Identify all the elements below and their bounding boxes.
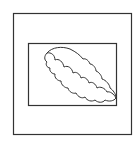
inner-frame: [29, 44, 117, 106]
picture-icon-svg: [0, 0, 139, 142]
cloud-icon: [45, 47, 116, 102]
framed-cloud-picture-icon: [0, 0, 139, 142]
outer-frame: [14, 14, 132, 135]
